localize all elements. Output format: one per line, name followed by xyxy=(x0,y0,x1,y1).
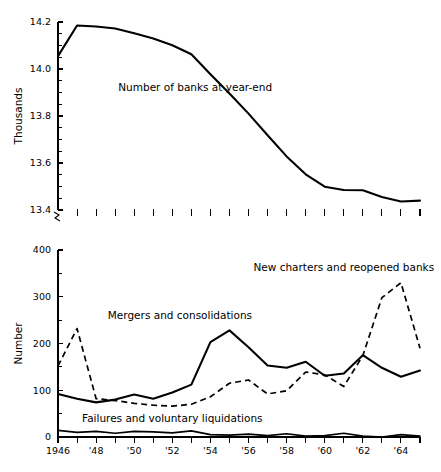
y-axis-title: Thousands xyxy=(12,88,24,146)
panel-bank-changes-panel: 0100200300400Number1946'48'50'52'54'56'5… xyxy=(12,244,434,456)
x-tick-label: '50 xyxy=(127,445,142,456)
x-tick-label: 1946 xyxy=(46,445,70,456)
y-tick-label: 14.0 xyxy=(30,63,51,74)
y-tick-label: 100 xyxy=(33,385,51,396)
series-line-number-of-banks-at-year-end xyxy=(58,26,420,202)
two-panel-line-chart: 13.413.613.814.014.2ThousandsNumber of b… xyxy=(0,0,441,472)
y-tick-label: 0 xyxy=(45,431,51,442)
x-tick-label: '52 xyxy=(165,445,180,456)
axis-break-icon xyxy=(54,212,60,221)
y-tick-label: 400 xyxy=(33,244,51,255)
series-line-mergers-and-consolidations xyxy=(58,330,420,402)
figure-container: 13.413.613.814.014.2ThousandsNumber of b… xyxy=(0,0,441,472)
y-tick-label: 13.8 xyxy=(30,110,51,121)
x-tick-label: '54 xyxy=(203,445,218,456)
x-tick-label: '58 xyxy=(279,445,294,456)
y-tick-label: 13.4 xyxy=(30,204,51,215)
y-tick-label: 200 xyxy=(33,338,51,349)
series-annotation-label: Number of banks at year-end xyxy=(118,81,272,93)
y-tick-label: 14.2 xyxy=(30,16,51,27)
x-tick-label: '64 xyxy=(394,445,409,456)
series-annotation-label: Failures and voluntary liquidations xyxy=(82,412,262,424)
y-axis-title: Number xyxy=(12,322,24,365)
y-tick-label: 300 xyxy=(33,291,51,302)
series-annotation-label: Mergers and consolidations xyxy=(108,309,252,321)
x-tick-label: '56 xyxy=(241,445,256,456)
x-tick-label: '62 xyxy=(355,445,370,456)
y-tick-label: 13.6 xyxy=(30,157,51,168)
series-line-new-charters-and-reopened-banks xyxy=(58,283,420,406)
series-annotation-label: New charters and reopened banks xyxy=(253,261,434,273)
series-line-failures-and-voluntary-liquidations xyxy=(58,430,420,437)
x-tick-label: '60 xyxy=(317,445,332,456)
x-tick-label: '48 xyxy=(89,445,104,456)
panel-banks-panel: 13.413.613.814.014.2ThousandsNumber of b… xyxy=(12,16,420,221)
